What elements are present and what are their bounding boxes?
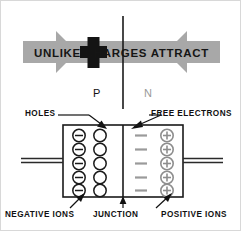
holes-leader xyxy=(58,115,107,129)
hole xyxy=(94,171,106,183)
free-electrons-column xyxy=(135,136,147,191)
banner-band xyxy=(56,41,187,63)
free-electrons-callout-label: FREE ELECTRONS xyxy=(151,109,232,118)
negative-ion xyxy=(73,171,85,183)
positive-ion xyxy=(161,171,173,183)
hole xyxy=(94,184,106,196)
p-region-label: P xyxy=(93,87,100,99)
positive-ions-callout-label: POSITIVE IONS xyxy=(161,210,227,219)
negative-ions-callout-label: NEGATIVE IONS xyxy=(5,210,74,219)
positive-ion xyxy=(161,184,173,196)
negative-ions-column xyxy=(73,129,85,196)
holes-column xyxy=(94,129,106,196)
negative-ion xyxy=(73,143,85,155)
junction-callout-label: JUNCTION xyxy=(93,210,138,219)
junction-leader xyxy=(120,196,127,208)
lead-wire-right xyxy=(183,159,223,163)
holes-callout-label: HOLES xyxy=(25,109,55,118)
positive-ion xyxy=(161,143,173,155)
positive-ion xyxy=(161,129,173,141)
negative-ion xyxy=(73,129,85,141)
lead-wire-left xyxy=(21,159,63,163)
hole xyxy=(94,143,106,155)
negative-ion xyxy=(73,157,85,169)
pn-junction-figure: UNLIKE CHARGES ATTRACT P N HOLES FREE EL… xyxy=(0,0,241,231)
hole xyxy=(94,129,106,141)
positive-ions-column xyxy=(161,129,173,196)
n-region-label: N xyxy=(144,87,152,99)
positive-ion xyxy=(161,157,173,169)
hole xyxy=(94,157,106,169)
